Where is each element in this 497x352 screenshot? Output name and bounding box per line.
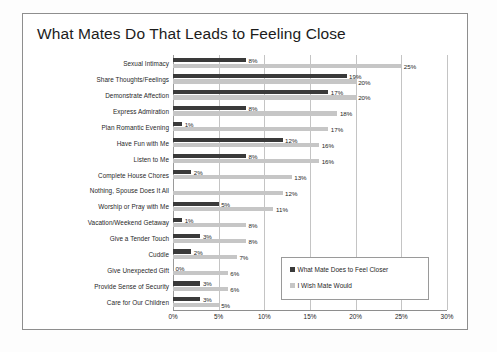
bar-i-wish-mate-would: 20% [173,95,356,99]
chart-row: Give a Tender Touch3%8% [173,230,447,246]
bar-i-wish-mate-would: 7% [173,255,237,259]
category-label: Nothing, Spouse Does It All [90,187,169,194]
chart-row: Plan Romantic Evening1%17% [173,119,447,135]
category-label: Vacation/Weekend Getaway [88,219,169,226]
chart-row: Express Admiration8%18% [173,103,447,119]
category-label: Give a Tender Touch [110,235,169,242]
bar-i-wish-mate-would: 8% [173,223,246,227]
bar-what-mate-does: 5% [173,202,219,206]
x-axis-tick-label: 30% [441,313,454,320]
x-axis-tick-label: 0% [168,313,177,320]
chart-row: Have Fun with Me12%16% [173,135,447,151]
scanned-page: What Mates Do That Leads to Feeling Clos… [0,0,497,352]
chart-title: What Mates Do That Leads to Feeling Clos… [37,25,346,43]
category-label: Express Admiration [113,107,169,114]
bar-i-wish-mate-would: 25% [173,64,401,68]
bar-what-mate-does: 12% [173,138,283,142]
bar-value-label: 5% [221,301,230,308]
bar-what-mate-does: 2% [173,170,191,174]
bar-value-label: 8% [249,237,258,244]
bar-i-wish-mate-would: 11% [173,207,273,211]
bar-value-label: 6% [230,285,239,292]
chart-row: Vacation/Weekend Getaway1%8% [173,214,447,230]
category-label: Demonstrate Affection [105,91,169,98]
legend-swatch-light-icon [290,283,295,288]
x-axis-tick-label: 25% [395,313,408,320]
legend-label-dark: What Mate Does to Feel Closer [298,266,389,273]
chart-legend: What Mate Does to Feel Closer I Wish Mat… [281,257,429,300]
category-label: Provide Sense of Security [94,283,169,290]
chart-frame: What Mates Do That Leads to Feeling Clos… [22,13,468,330]
chart-row: Demonstrate Affection17%20% [173,87,447,103]
bar-i-wish-mate-would: 20% [173,79,356,83]
x-axis-tick-label: 10% [258,313,271,320]
legend-item-i-wish-mate-would: I Wish Mate Would [290,282,352,289]
chart-row: Sexual Intimacy8%25% [173,55,447,71]
bar-i-wish-mate-would: 6% [173,271,228,275]
bar-what-mate-does: 2% [173,249,191,253]
bar-value-label: 12% [285,190,297,197]
bar-value-label: 16% [322,158,334,165]
bar-value-label: 25% [404,62,416,69]
category-label: Cuddle [148,251,169,258]
bar-value-label: 8% [249,221,258,228]
bar-what-mate-does: 8% [173,106,246,110]
category-label: Have Fun with Me [117,139,169,146]
bar-i-wish-mate-would: 18% [173,111,337,115]
chart-row: Worship or Pray with Me5%11% [173,198,447,214]
bar-what-mate-does: 17% [173,90,328,94]
category-label: Share Thoughts/Feelings [97,75,169,82]
category-label: Give Unexpected Gift [107,267,169,274]
bar-what-mate-does: 8% [173,154,246,158]
category-label: Sexual Intimacy [123,59,169,66]
x-axis-tick-label: 15% [304,313,317,320]
bar-what-mate-does: 8% [173,58,246,62]
chart-row: Complete House Chores2%13% [173,167,447,183]
bar-value-label: 20% [358,94,370,101]
bar-i-wish-mate-would: 12% [173,191,283,195]
category-label: Care for Our Children [107,299,169,306]
legend-label-light: I Wish Mate Would [298,282,352,289]
legend-swatch-dark-icon [290,267,295,272]
x-axis-tick-label: 20% [349,313,362,320]
legend-item-what-mate-does: What Mate Does to Feel Closer [290,266,388,273]
bar-value-label: 16% [322,142,334,149]
bar-what-mate-does: 1% [173,122,182,126]
bar-value-label: 11% [276,206,288,213]
bar-i-wish-mate-would: 16% [173,143,319,147]
bar-value-label: 17% [331,126,343,133]
bar-what-mate-does: 3% [173,234,200,238]
x-axis-tick-label: 5% [214,313,223,320]
bar-value-label: 20% [358,78,370,85]
bar-what-mate-does: 3% [173,281,200,285]
chart-row: Nothing, Spouse Does It All12% [173,183,447,199]
bar-i-wish-mate-would: 17% [173,127,328,131]
chart-row: Listen to Me8%16% [173,151,447,167]
category-label: Complete House Chores [98,171,169,178]
category-label: Worship or Pray with Me [98,203,169,210]
bar-i-wish-mate-would: 8% [173,239,246,243]
bar-value-label: 13% [294,174,306,181]
bar-what-mate-does: 1% [173,218,182,222]
bar-i-wish-mate-would: 16% [173,159,319,163]
gridline-30pct [447,55,448,310]
bar-what-mate-does: 19% [173,74,347,78]
bar-value-label: 6% [230,269,239,276]
bar-what-mate-does: 3% [173,297,200,301]
bar-i-wish-mate-would: 6% [173,287,228,291]
bar-i-wish-mate-would: 5% [173,303,219,307]
bar-value-label: 7% [239,253,248,260]
category-label: Listen to Me [134,155,169,162]
category-label: Plan Romantic Evening [102,123,169,130]
bar-value-label: 18% [340,110,352,117]
x-axis-line [173,310,447,311]
bar-i-wish-mate-would: 13% [173,175,292,179]
chart-row: Share Thoughts/Feelings19%20% [173,71,447,87]
